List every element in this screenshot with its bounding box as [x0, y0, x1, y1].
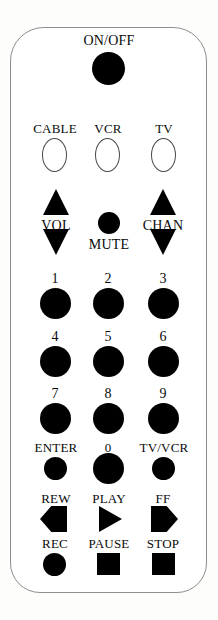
power-label: ON/OFF: [59, 34, 159, 48]
tv-vcr-label: TV/VCR: [128, 441, 200, 454]
key-8-button[interactable]: [93, 403, 124, 434]
vcr-button[interactable]: [95, 138, 120, 172]
enter-label: ENTER: [20, 441, 92, 454]
cable-button[interactable]: [42, 138, 67, 172]
key-8-label: 8: [88, 387, 128, 401]
record-label: REC: [27, 537, 83, 550]
volume-down-button[interactable]: [43, 229, 69, 255]
key-9-label: 9: [143, 387, 183, 401]
key-3-label: 3: [143, 272, 183, 286]
pause-button[interactable]: [97, 553, 120, 575]
play-button[interactable]: [99, 506, 122, 532]
key-9-button[interactable]: [148, 403, 179, 434]
key-2-button[interactable]: [93, 288, 124, 319]
key-4-label: 4: [35, 330, 75, 344]
channel-down-button[interactable]: [150, 229, 176, 255]
tv-button[interactable]: [151, 138, 176, 172]
key-1-button[interactable]: [40, 288, 71, 319]
fast-forward-label: FF: [135, 492, 191, 505]
volume-up-button[interactable]: [43, 189, 69, 215]
rewind-label: REW: [26, 492, 86, 505]
tv-label: TV: [133, 122, 195, 135]
stop-label: STOP: [133, 537, 193, 550]
key-7-label: 7: [35, 387, 75, 401]
mute-label: MUTE: [73, 238, 145, 252]
power-button[interactable]: [92, 52, 125, 85]
key-5-button[interactable]: [93, 346, 124, 377]
key-2-label: 2: [88, 272, 128, 286]
key-1-label: 1: [35, 272, 75, 286]
key-0-button[interactable]: [93, 453, 124, 484]
tv-vcr-button[interactable]: [152, 457, 175, 480]
key-3-button[interactable]: [148, 288, 179, 319]
stop-button[interactable]: [152, 553, 175, 575]
enter-button[interactable]: [44, 457, 67, 480]
key-5-label: 5: [88, 330, 128, 344]
key-6-label: 6: [143, 330, 183, 344]
mute-button[interactable]: [98, 212, 120, 234]
key-6-button[interactable]: [148, 346, 179, 377]
channel-up-button[interactable]: [150, 189, 176, 215]
remote-control-screenshot: ON/OFF CABLE VCR TV VOL MUTE CHAN 1 2 3 …: [0, 0, 218, 620]
record-button[interactable]: [43, 553, 66, 576]
key-4-button[interactable]: [40, 346, 71, 377]
key-7-button[interactable]: [40, 403, 71, 434]
play-label: PLAY: [79, 492, 139, 505]
vcr-label: VCR: [74, 122, 142, 135]
